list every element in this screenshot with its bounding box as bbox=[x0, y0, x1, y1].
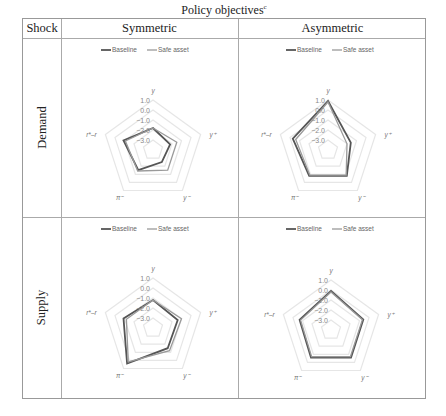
grid-ring bbox=[280, 100, 375, 191]
header-symmetric: Symmetric bbox=[61, 19, 238, 38]
axis-label-y: y bbox=[150, 265, 155, 273]
axis-label-y: y bbox=[328, 267, 333, 275]
tick-label: 1.0 bbox=[140, 97, 150, 104]
axis-label-piminus: π⁻ bbox=[116, 372, 124, 379]
tick-label: 0.0 bbox=[140, 285, 150, 292]
tick-label: −1.0 bbox=[136, 117, 150, 124]
legend-safe-asset: Safe asset bbox=[343, 46, 374, 53]
radar-chart-supply-symmetric: yy⁺y⁻π⁻r*–r1.00.0−1.0−2.0−3.0BaselineSaf… bbox=[61, 217, 237, 398]
legend-safe-asset: Safe asset bbox=[343, 225, 374, 232]
tick-label: −1.0 bbox=[314, 297, 328, 304]
axis-label-yplus: y⁺ bbox=[386, 311, 394, 319]
axis-label-yminus: y⁻ bbox=[182, 372, 190, 380]
tick-label: 1.0 bbox=[315, 97, 325, 104]
figure-title: Policy objectivesc bbox=[22, 3, 426, 18]
axis-label-rr: r*–r bbox=[264, 311, 275, 318]
radar-chart-demand-symmetric: yy⁺y⁻π⁻r*–r1.00.0−1.0−2.0−3.0BaselineSaf… bbox=[61, 38, 237, 216]
axis-label-yplus: y⁺ bbox=[383, 131, 391, 139]
chart-legend: BaselineSafe asset bbox=[286, 225, 374, 232]
tick-label: 1.0 bbox=[318, 277, 328, 284]
axis-label-yminus: y⁻ bbox=[360, 374, 368, 382]
tick-label: −2.0 bbox=[136, 127, 150, 134]
chart-legend: BaselineSafe asset bbox=[286, 46, 374, 53]
tick-label: −3.0 bbox=[314, 317, 328, 324]
legend-safe-asset: Safe asset bbox=[158, 225, 189, 232]
row-label-supply: Supply bbox=[23, 217, 61, 398]
legend-baseline: Baseline bbox=[112, 46, 137, 53]
chart-legend: BaselineSafe asset bbox=[101, 225, 189, 232]
tick-label: −1.0 bbox=[311, 117, 325, 124]
axis-label-y: y bbox=[150, 87, 155, 95]
axis-label-yplus: y⁺ bbox=[208, 131, 216, 139]
axis-label-piminus: π⁻ bbox=[291, 194, 299, 201]
tick-label: 0.0 bbox=[140, 107, 150, 114]
tick-label: −2.0 bbox=[311, 127, 325, 134]
legend-safe-asset: Safe asset bbox=[158, 46, 189, 53]
legend-baseline: Baseline bbox=[297, 46, 322, 53]
tick-label: 1.0 bbox=[140, 275, 150, 282]
tick-label: −3.0 bbox=[136, 137, 150, 144]
chart-legend: BaselineSafe asset bbox=[101, 46, 189, 53]
tick-label: −3.0 bbox=[311, 137, 325, 144]
axis-label-piminus: π⁻ bbox=[294, 374, 302, 381]
grid-ring bbox=[105, 100, 200, 191]
axis-label-rr: r*–r bbox=[261, 131, 272, 138]
header-asymmetric: Asymmetric bbox=[238, 19, 427, 38]
legend-baseline: Baseline bbox=[297, 225, 322, 232]
axis-label-rr: r*–r bbox=[86, 131, 97, 138]
grid-ring bbox=[312, 310, 350, 346]
grid-ring bbox=[134, 308, 172, 344]
axis-label-yminus: y⁻ bbox=[182, 194, 190, 202]
axis-label-yminus: y⁻ bbox=[357, 194, 365, 202]
tick-label: −1.0 bbox=[136, 295, 150, 302]
axis-label-rr: r*–r bbox=[86, 309, 97, 316]
tick-label: −3.0 bbox=[136, 315, 150, 322]
grid-ring bbox=[309, 130, 347, 166]
tick-label: −2.0 bbox=[136, 305, 150, 312]
row-label-demand: Demand bbox=[23, 38, 61, 217]
header-shock: Shock bbox=[23, 19, 61, 38]
radar-chart-supply-asymmetric: yy⁺y⁻π⁻r*–r1.00.0−1.0−2.0−3.0BaselineSaf… bbox=[238, 217, 426, 398]
tick-label: 0.0 bbox=[315, 107, 325, 114]
legend-baseline: Baseline bbox=[112, 225, 137, 232]
axis-label-y: y bbox=[325, 87, 330, 95]
axis-label-piminus: π⁻ bbox=[116, 194, 124, 201]
series-safe-asset bbox=[301, 292, 363, 357]
tick-label: 0.0 bbox=[318, 287, 328, 294]
axis-label-yplus: y⁺ bbox=[208, 309, 216, 317]
tick-label: −2.0 bbox=[314, 307, 328, 314]
radar-chart-demand-asymmetric: yy⁺y⁻π⁻r*–r1.00.0−1.0−2.0−3.0BaselineSaf… bbox=[238, 38, 426, 216]
